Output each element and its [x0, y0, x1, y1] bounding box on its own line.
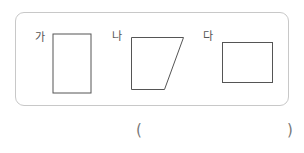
figure-da-rectangle	[223, 43, 273, 83]
figure-ga-rectangle	[53, 34, 91, 93]
answer-open-paren: (	[136, 123, 142, 138]
answer-blank[interactable]	[146, 120, 284, 140]
figure-na-trapezoid	[132, 38, 184, 90]
answer-close-paren: )	[287, 123, 293, 138]
